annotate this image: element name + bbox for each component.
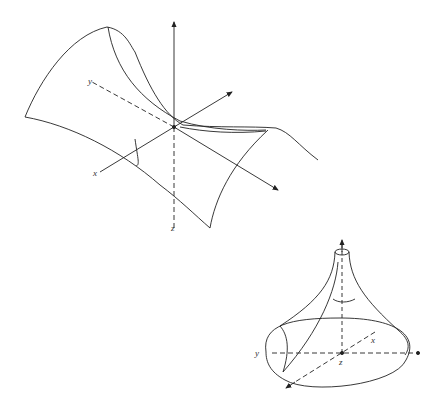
- saddle-inner-curve-2: [180, 127, 266, 132]
- diagram-canvas: y x z y x z: [0, 0, 448, 406]
- saddle-label-x: x: [92, 168, 97, 178]
- y-axis-pos: [174, 92, 232, 127]
- front-meridian: [283, 262, 338, 372]
- saddle-label-y: y: [87, 76, 92, 86]
- right-meridian: [398, 330, 408, 355]
- x-axis-pos: [174, 127, 278, 190]
- saddle-front-edge: [25, 117, 210, 228]
- neck-ring: [333, 299, 355, 302]
- left-meridian: [280, 326, 287, 372]
- x-axis-dashed: [295, 332, 375, 382]
- pseudo-label-y: y: [254, 348, 259, 358]
- saddle-figure: [25, 22, 318, 228]
- saddle-cross-curve: [135, 139, 138, 166]
- saddle-inner-curve: [108, 27, 266, 130]
- pseudo-label-z: z: [338, 357, 343, 367]
- saddle-top-edge: [25, 27, 318, 160]
- left-profile: [280, 252, 335, 326]
- saddle-label-z: z: [170, 223, 175, 233]
- pseudo-label-x: x: [370, 335, 375, 345]
- pseudosphere-figure: [266, 240, 420, 388]
